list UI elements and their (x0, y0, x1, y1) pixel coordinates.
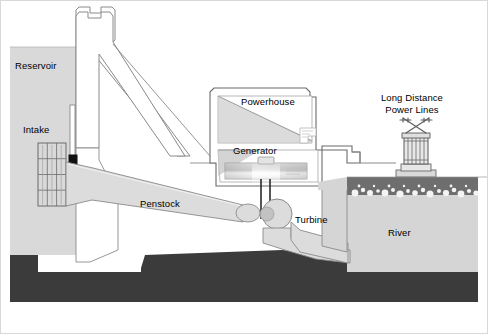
label-powerhouse: Powerhouse (241, 96, 295, 107)
label-generator: Generator (233, 145, 277, 156)
label-turbine: Turbine (295, 214, 328, 225)
turbine-hub (260, 207, 274, 221)
bedrock-left-block (10, 255, 36, 302)
tower-cap (402, 133, 430, 138)
diagram-canvas: Reservoir Intake Penstock Powerhouse Gen… (0, 0, 488, 334)
label-power-lines-line1: Long Distance (366, 92, 458, 103)
label-river: River (388, 227, 411, 238)
turbine-inlet (236, 204, 260, 222)
label-power-lines-line2: Power Lines (366, 104, 458, 115)
hydroelectric-dam-diagram (0, 0, 488, 334)
tower-lattice-bars (404, 137, 428, 164)
generator-glow (252, 162, 280, 184)
tower-base-upper (401, 164, 431, 171)
river-group (347, 171, 479, 272)
label-reservoir: Reservoir (15, 60, 57, 71)
label-penstock: Penstock (140, 198, 180, 209)
label-intake: Intake (23, 124, 49, 135)
